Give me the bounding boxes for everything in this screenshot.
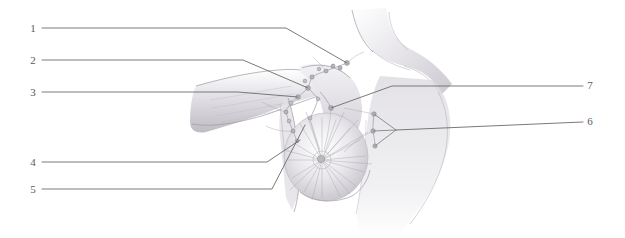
lymph-node-breast-internal-1: [316, 97, 320, 101]
label-6[interactable]: 6: [587, 115, 593, 127]
lymph-node-infraclavicular-1: [310, 75, 314, 79]
lymph-node-supraclavicular-2: [338, 66, 342, 70]
label-1[interactable]: 1: [30, 22, 36, 34]
lymph-node-axillary-lateral-1: [284, 110, 288, 114]
anatomical-illustration: 1 2 3 4 5 7 6: [0, 0, 625, 238]
lymph-node-supraclavicular-3: [331, 64, 335, 68]
label-2[interactable]: 2: [30, 54, 36, 66]
figure-root: 1 2 3 4 5 7 6: [0, 0, 625, 238]
lymph-node-axillary-central-2: [289, 101, 293, 105]
lymph-node-supraclavicular-5: [317, 67, 321, 71]
lymph-node-axillary-lateral-2: [287, 119, 291, 123]
label-4[interactable]: 4: [30, 156, 36, 168]
lymph-node-supraclavicular-4: [324, 69, 328, 73]
label-5[interactable]: 5: [30, 183, 36, 195]
label-3[interactable]: 3: [30, 86, 36, 98]
lymph-node-infraclavicular-2: [303, 79, 307, 83]
lymph-node-breast-internal-2: [308, 116, 312, 120]
label-7[interactable]: 7: [587, 79, 593, 91]
nipple: [317, 155, 324, 162]
lymph-node-axillary-pectoral-1: [291, 129, 295, 133]
